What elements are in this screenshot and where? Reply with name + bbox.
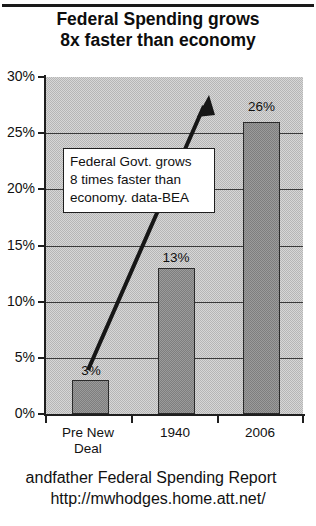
y-axis-label-20: 20% (7, 181, 35, 195)
chart-title-line-1: Federal Spending grows (0, 9, 316, 30)
x-tick-3 (302, 416, 304, 423)
y-tick-25 (38, 132, 45, 134)
footer: andfather Federal Spending Report http:/… (0, 468, 316, 509)
y-axis-label-25: 25% (7, 125, 35, 139)
callout-line-1: Federal Govt. grows (70, 153, 209, 171)
x-axis-category-1940: 1940 (135, 425, 215, 440)
y-tick-15 (38, 245, 45, 247)
y-tick-20 (38, 188, 45, 190)
callout-line-3: economy. data-BEA (70, 189, 209, 207)
y-tick-30 (38, 76, 45, 78)
top-divider (2, 4, 314, 7)
growth-arrow-icon (46, 77, 303, 414)
x-tick-0 (45, 416, 47, 423)
footer-source-text: andfather Federal Spending Report (0, 468, 316, 488)
y-axis-label-15: 15% (7, 238, 35, 252)
x-tick-1 (131, 416, 133, 423)
chart-figure: Federal Spending grows 8x faster than ec… (0, 0, 316, 526)
x-axis-category-pre-new-deal-line-1: Pre New (48, 425, 128, 440)
y-axis-label-5: 5% (15, 350, 35, 364)
y-axis-label-30: 30% (7, 69, 35, 83)
callout-line-2: 8 times faster than (70, 171, 209, 189)
callout-box: Federal Govt. grows 8 times faster than … (63, 148, 215, 213)
y-axis-label-0: 0% (15, 406, 35, 420)
chart-title-line-2: 8x faster than economy (0, 30, 316, 51)
y-tick-5 (38, 357, 45, 359)
y-axis-label-10: 10% (7, 294, 35, 308)
x-axis-category-2006: 2006 (220, 425, 300, 440)
chart-title: Federal Spending grows 8x faster than ec… (0, 9, 316, 51)
x-axis-line (44, 414, 305, 416)
x-tick-2 (217, 416, 219, 423)
y-tick-0 (38, 413, 45, 415)
footer-url[interactable]: http://mwhodges.home.att.net/ (0, 488, 316, 509)
y-tick-10 (38, 301, 45, 303)
x-axis-category-pre-new-deal-line-2: Deal (48, 441, 128, 456)
